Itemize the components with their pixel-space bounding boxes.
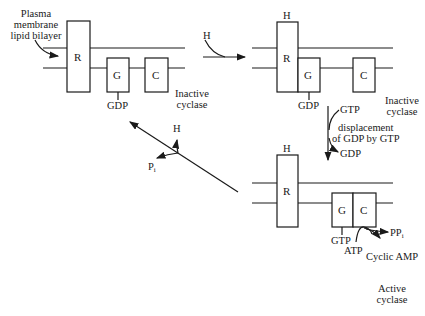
membrane-panel-3 [252, 155, 393, 242]
ppi-sub: i [402, 232, 404, 240]
g-protein-label-1: G [113, 70, 121, 81]
state-label-2-line2: cyclase [380, 106, 424, 117]
hormone-label-arrow: H [203, 30, 211, 41]
membrane-label-line1: Plasma [6, 8, 66, 19]
receptor-label-1: R [74, 52, 81, 63]
pi-label: Pi [148, 161, 156, 176]
atp-label: ATP [344, 245, 363, 256]
cyclic-amp-label: Cyclic AMP [366, 251, 418, 262]
state-label-1: Inactive cyclase [172, 88, 212, 110]
g-protein-label-2: G [304, 70, 312, 81]
membrane-panel-2 [252, 22, 393, 100]
receptor-label-3: R [283, 186, 290, 197]
exchange-label-line1: displacement [332, 122, 400, 133]
exchange-label: displacement of GDP by GTP [332, 122, 400, 144]
hormone-binding-arrow [203, 40, 245, 57]
ppi-main: PP [390, 227, 402, 238]
receptor-label-2: R [283, 53, 290, 64]
state-label-2: Inactive cyclase [380, 95, 424, 117]
hormone-label-3: H [283, 143, 291, 154]
membrane-label-line2: membrane [6, 19, 66, 30]
diagram-canvas [0, 0, 425, 316]
g-protein-label-3: G [338, 205, 346, 216]
state-label-3-line1: Active [372, 283, 412, 294]
hormone-label-2: H [283, 10, 291, 21]
hydrolysis-arrow [130, 122, 238, 192]
state-label-1-line1: Inactive [172, 88, 212, 99]
gdp-label-2: GDP [298, 100, 319, 111]
membrane-label-line3: lipid bilayer [6, 30, 66, 41]
gtp-in-label: GTP [340, 104, 360, 115]
membrane-label: Plasma membrane lipid bilayer [6, 8, 66, 41]
gdp-label-1: GDP [107, 100, 128, 111]
hormone-released-label: H [173, 123, 181, 134]
cyclase-label-2: C [360, 70, 367, 81]
gdp-out-label: GDP [340, 148, 361, 159]
state-label-2-line1: Inactive [380, 95, 424, 106]
cyclase-label-3: C [360, 205, 367, 216]
cyclase-label-1: C [152, 70, 159, 81]
state-label-3: Active cyclase [372, 283, 412, 305]
ppi-label: PPi [390, 227, 404, 242]
pi-sub: i [154, 166, 156, 174]
state-label-3-line2: cyclase [372, 294, 412, 305]
exchange-label-line2: of GDP by GTP [332, 133, 400, 144]
state-label-1-line2: cyclase [172, 99, 212, 110]
